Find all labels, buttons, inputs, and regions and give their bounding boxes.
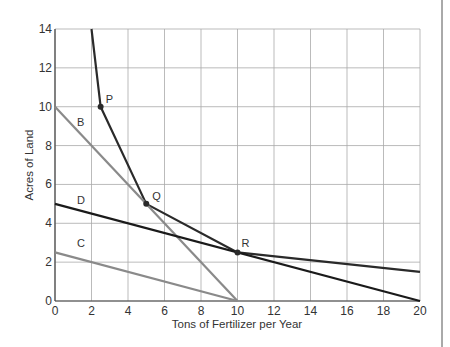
x-tick-label: 4 bbox=[125, 304, 132, 318]
y-tick-label: 2 bbox=[45, 255, 52, 269]
x-axis-label: Tons of Fertilizer per Year bbox=[172, 318, 303, 330]
y-tick-label: 14 bbox=[39, 22, 53, 36]
point-q-marker bbox=[143, 201, 149, 207]
y-tick-label: 6 bbox=[45, 177, 52, 191]
y-tick-label: 10 bbox=[39, 100, 53, 114]
x-tick-label: 16 bbox=[340, 304, 354, 318]
series-c-line bbox=[55, 252, 238, 301]
y-tick-label: 0 bbox=[45, 294, 52, 308]
x-tick-label: 18 bbox=[377, 304, 391, 318]
point-labels: PQRBCD bbox=[77, 93, 250, 250]
label-b: B bbox=[77, 116, 84, 128]
x-tick-label: 12 bbox=[267, 304, 281, 318]
point-r-marker bbox=[235, 249, 241, 255]
label-q: Q bbox=[152, 190, 161, 202]
series-isoquant-line bbox=[92, 29, 421, 272]
x-tick-label: 8 bbox=[198, 304, 205, 318]
x-tick-label: 6 bbox=[161, 304, 168, 318]
isoquant-chart: PQRBCD 0246810121416182002468101214 Tons… bbox=[0, 0, 450, 347]
x-tick-label: 10 bbox=[231, 304, 245, 318]
y-axis-label: Acres of Land bbox=[23, 130, 35, 201]
point-p-marker bbox=[98, 104, 104, 110]
x-tick-label: 0 bbox=[52, 304, 59, 318]
x-tick-label: 14 bbox=[304, 304, 318, 318]
label-p: P bbox=[106, 93, 113, 105]
label-d: D bbox=[77, 194, 85, 206]
x-tick-label: 2 bbox=[88, 304, 95, 318]
point-markers bbox=[98, 104, 241, 256]
label-r: R bbox=[242, 237, 250, 249]
y-tick-label: 12 bbox=[39, 61, 53, 75]
label-c: C bbox=[77, 237, 85, 249]
x-tick-label: 20 bbox=[413, 304, 427, 318]
y-tick-label: 4 bbox=[45, 216, 52, 230]
y-tick-label: 8 bbox=[45, 139, 52, 153]
